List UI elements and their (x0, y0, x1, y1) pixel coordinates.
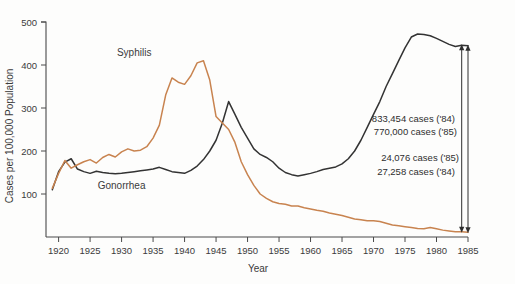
y-tick-label: 400 (21, 60, 37, 71)
x-axis-title: Year (248, 263, 269, 274)
y-axis-line (41, 22, 46, 237)
series-label-gonorrhea: Gonorrhea (98, 180, 146, 191)
y-tick-label: 100 (21, 189, 37, 200)
syphilis-1985-arrow (465, 45, 470, 234)
series-label-syphilis: Syphilis (117, 47, 151, 58)
x-tick-label: 1955 (268, 245, 289, 256)
gonorrhea-1984-arrow (459, 44, 464, 233)
gonorrhea-annotation-2: 770,000 cases ('85) (374, 126, 457, 137)
x-tick-label: 1975 (394, 245, 415, 256)
syphilis-annotation-1: 24,076 cases ('85) (381, 152, 459, 163)
x-tick-label: 1970 (363, 245, 384, 256)
series-line-syphilis (52, 61, 468, 233)
x-tick-label: 1980 (426, 245, 447, 256)
x-tick-label: 1965 (331, 245, 352, 256)
x-axis-tick-group: 1920192519301935194019451950195519601965… (48, 237, 479, 256)
x-tick-label: 1940 (174, 245, 195, 256)
y-tick-label: 300 (21, 103, 37, 114)
x-tick-label: 1925 (80, 245, 101, 256)
y-axis-title: Cases per 100,000 Population (4, 69, 15, 204)
std-incidence-line-chart: 100200300400500 192019251930193519401945… (0, 0, 515, 284)
x-tick-label: 1950 (237, 245, 258, 256)
x-tick-label: 1945 (205, 245, 226, 256)
x-tick-label: 1960 (300, 245, 321, 256)
annotation-arrow-group (459, 44, 470, 233)
series-label-group: GonorrheaSyphilis (98, 47, 152, 190)
x-tick-label: 1920 (48, 245, 69, 256)
y-tick-label: 500 (21, 17, 37, 28)
chart-figure: 100200300400500 192019251930193519401945… (0, 0, 515, 284)
y-tick-label: 200 (21, 146, 37, 157)
gonorrhea-annotation-1: 833,454 cases ('84) (372, 113, 455, 124)
x-tick-label: 1935 (143, 245, 164, 256)
y-axis-tick-group: 100200300400500 (21, 17, 46, 200)
x-tick-label: 1930 (111, 245, 132, 256)
syphilis-annotation-2: 27,258 cases ('84) (377, 166, 455, 177)
x-tick-label: 1985 (457, 245, 478, 256)
